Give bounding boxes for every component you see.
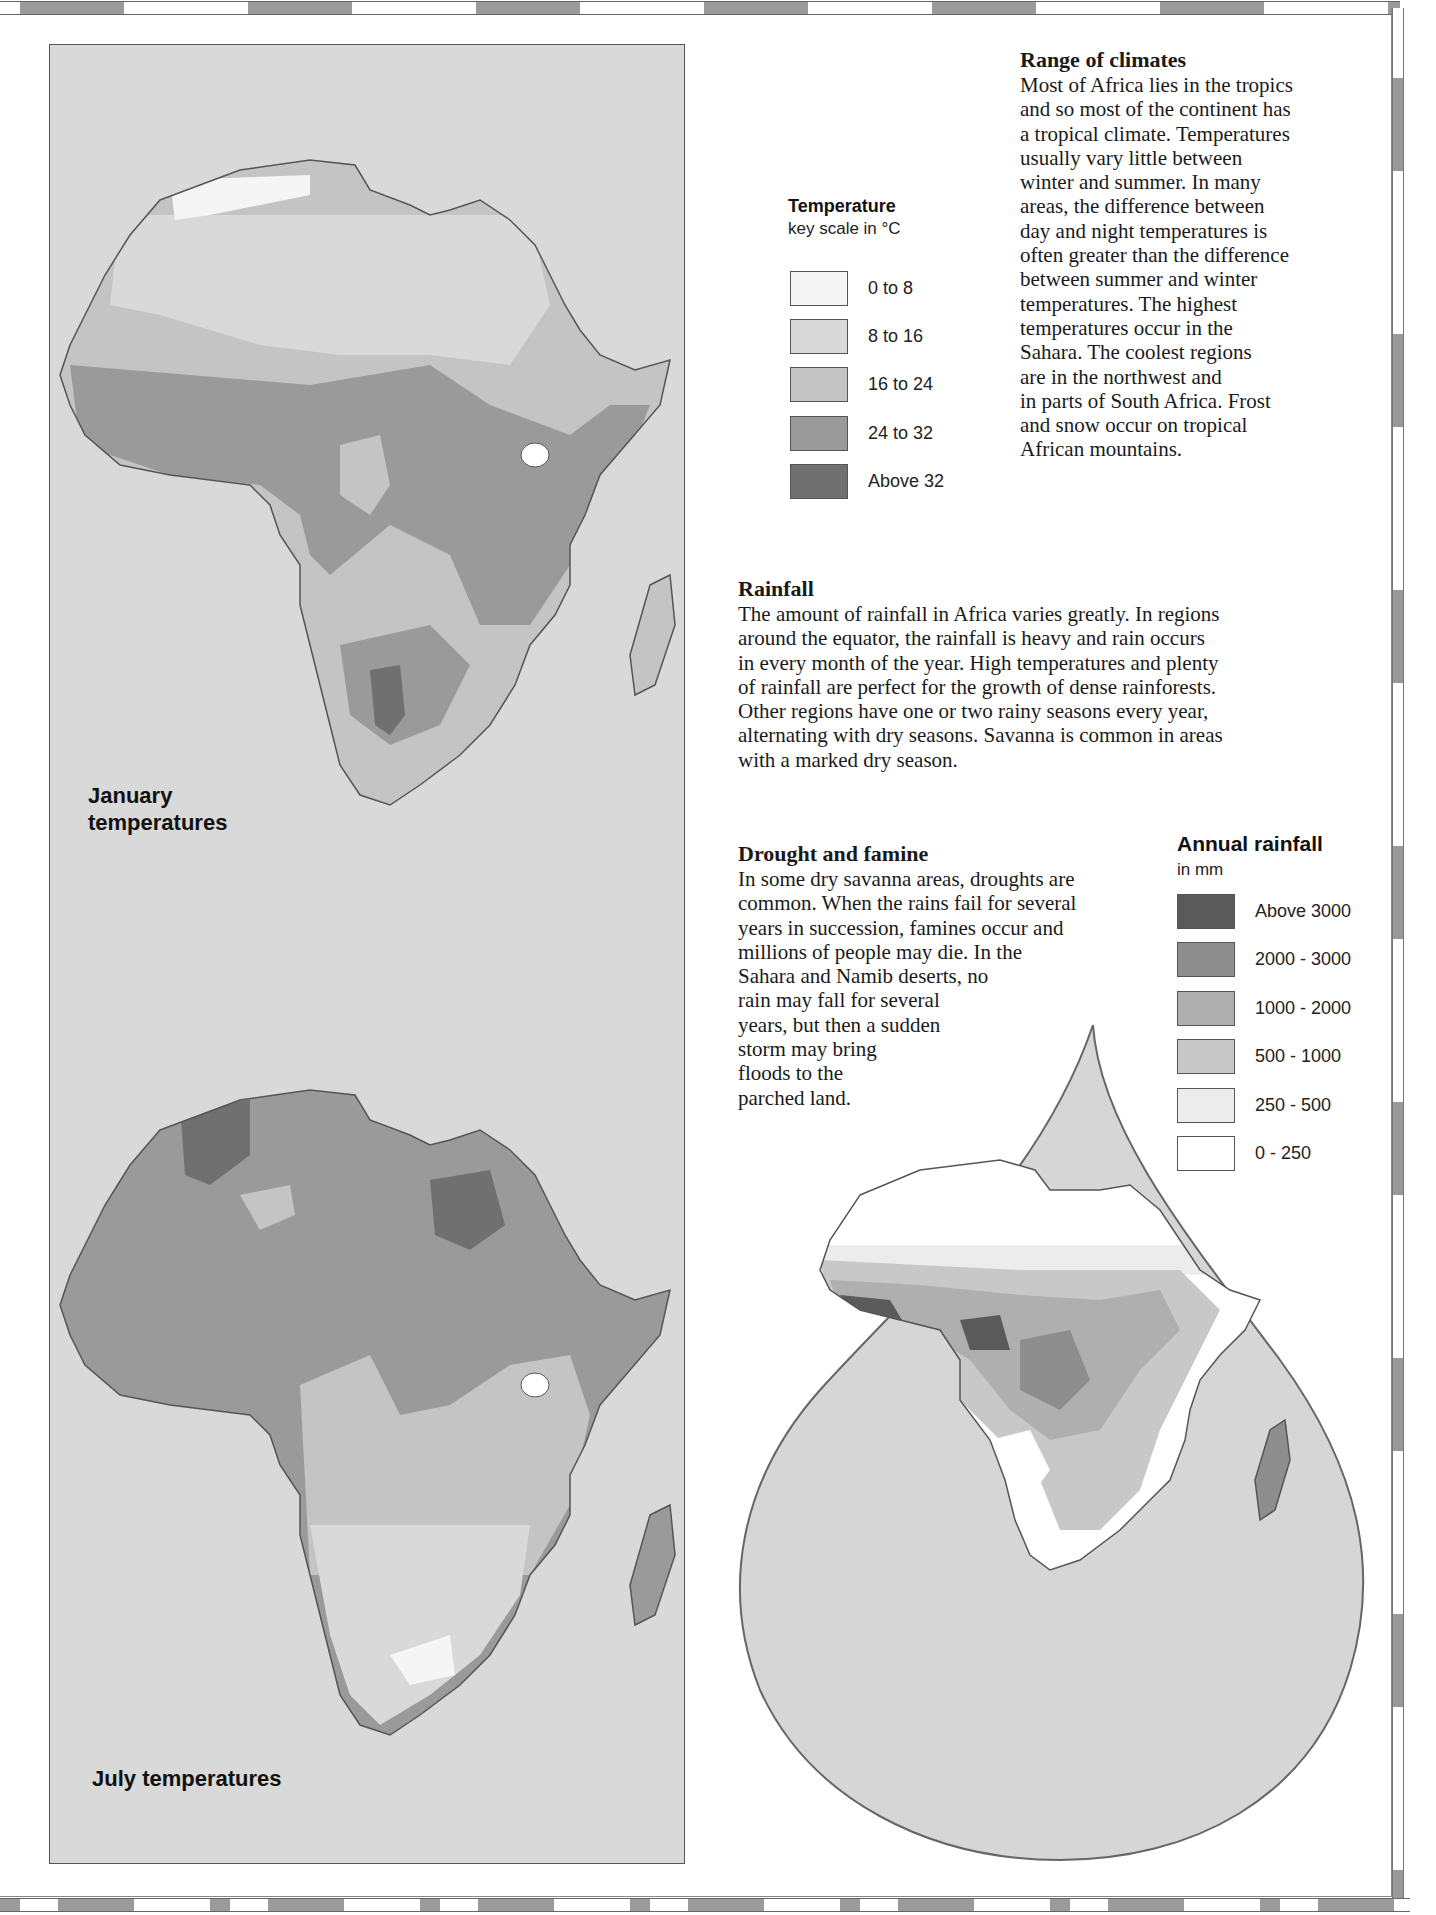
january-map-label: January temperatures — [88, 782, 227, 836]
text-line: The amount of rainfall in Africa varies … — [738, 602, 1223, 626]
rainfall-swatch — [1177, 991, 1235, 1026]
text-line: Sahara. The coolest regions — [1020, 340, 1293, 364]
temperature-legend-item: Above 32 — [790, 464, 944, 499]
text-line: in parts of South Africa. Frost — [1020, 389, 1293, 413]
text-line: around the equator, the rainfall is heav… — [738, 626, 1223, 650]
january-temperature-map — [49, 105, 685, 965]
text-line: usually vary little between — [1020, 146, 1293, 170]
rainfall-legend-title: Annual rainfall — [1177, 832, 1323, 856]
text-line: years, but then a sudden — [738, 1013, 1076, 1037]
drought-and-famine-section: Drought and famine In some dry savanna a… — [738, 841, 1076, 1110]
rainfall-legend-label: 1000 - 2000 — [1255, 998, 1351, 1019]
rainfall-legend-item: Above 3000 — [1177, 894, 1351, 929]
temperature-legend-item: 24 to 32 — [790, 416, 933, 451]
temperature-legend-label: 24 to 32 — [868, 423, 933, 444]
range-of-climates-body: Most of Africa lies in the tropics and s… — [1020, 73, 1293, 462]
rainfall-legend-label: 0 - 250 — [1255, 1143, 1311, 1164]
range-of-climates-section: Range of climates Most of Africa lies in… — [1020, 47, 1293, 462]
temperature-legend-subtitle: key scale in °C — [788, 219, 901, 239]
text-line: Other regions have one or two rainy seas… — [738, 699, 1223, 723]
rainfall-legend-item: 0 - 250 — [1177, 1136, 1311, 1171]
rainfall-body: The amount of rainfall in Africa varies … — [738, 602, 1223, 772]
rainfall-legend-item: 2000 - 3000 — [1177, 942, 1351, 977]
text-line: African mountains. — [1020, 437, 1293, 461]
july-temperature-map — [49, 1035, 685, 1864]
text-line: millions of people may die. In the — [738, 940, 1076, 964]
rainfall-swatch — [1177, 942, 1235, 977]
decorative-border-bottom — [0, 1898, 1410, 1912]
temperature-maps-panel: January temperatures July temperatures — [49, 44, 685, 1864]
drought-and-famine-body: In some dry savanna areas, droughts are … — [738, 867, 1076, 1110]
rainfall-section: Rainfall The amount of rainfall in Afric… — [738, 576, 1223, 772]
rainfall-swatch — [1177, 894, 1235, 929]
text-line: and snow occur on tropical — [1020, 413, 1293, 437]
text-line: and so most of the continent has — [1020, 97, 1293, 121]
text-line: with a marked dry season. — [738, 748, 1223, 772]
temperature-legend-item: 0 to 8 — [790, 271, 913, 306]
rainfall-swatch — [1177, 1088, 1235, 1123]
text-line: years in succession, famines occur and — [738, 916, 1076, 940]
rainfall-swatch — [1177, 1039, 1235, 1074]
range-of-climates-heading: Range of climates — [1020, 47, 1293, 73]
rainfall-legend-label: 2000 - 3000 — [1255, 949, 1351, 970]
rainfall-legend-subtitle: in mm — [1177, 860, 1223, 880]
july-map-label: July temperatures — [92, 1765, 282, 1792]
text-line: areas, the difference between — [1020, 194, 1293, 218]
text-line: temperatures. The highest — [1020, 292, 1293, 316]
rainfall-swatch — [1177, 1136, 1235, 1171]
temperature-legend-label: 16 to 24 — [868, 374, 933, 395]
temperature-swatch — [790, 367, 848, 402]
text-line: Most of Africa lies in the tropics — [1020, 73, 1293, 97]
text-line: alternating with dry seasons. Savanna is… — [738, 723, 1223, 747]
temperature-legend-item: 16 to 24 — [790, 367, 933, 402]
text-line: often greater than the difference — [1020, 243, 1293, 267]
temperature-swatch — [790, 319, 848, 354]
rainfall-legend-label: 250 - 500 — [1255, 1095, 1331, 1116]
temperature-swatch — [790, 416, 848, 451]
january-label-line1: January — [88, 782, 227, 809]
temperature-swatch — [790, 271, 848, 306]
rainfall-legend-item: 500 - 1000 — [1177, 1039, 1341, 1074]
text-line: Sahara and Namib deserts, no — [738, 964, 1076, 988]
rainfall-heading: Rainfall — [738, 576, 1223, 602]
text-line: temperatures occur in the — [1020, 316, 1293, 340]
text-line: of rainfall are perfect for the growth o… — [738, 675, 1223, 699]
temperature-legend-item: 8 to 16 — [790, 319, 923, 354]
text-line: winter and summer. In many — [1020, 170, 1293, 194]
temperature-legend-title: Temperature — [788, 196, 896, 217]
text-line: day and night temperatures is — [1020, 219, 1293, 243]
text-line: storm may bring — [738, 1037, 1076, 1061]
january-label-line2: temperatures — [88, 809, 227, 836]
text-line: floods to the — [738, 1061, 1076, 1085]
temperature-swatch — [790, 464, 848, 499]
temperature-legend-label: 0 to 8 — [868, 278, 913, 299]
rainfall-legend-item: 250 - 500 — [1177, 1088, 1331, 1123]
text-line: common. When the rains fail for several — [738, 891, 1076, 915]
text-line: between summer and winter — [1020, 267, 1293, 291]
text-line: parched land. — [738, 1086, 1076, 1110]
text-line: in every month of the year. High tempera… — [738, 651, 1223, 675]
temperature-legend-label: 8 to 16 — [868, 326, 923, 347]
text-line: rain may fall for several — [738, 988, 1076, 1012]
temperature-legend-label: Above 32 — [868, 471, 944, 492]
rainfall-legend-label: 500 - 1000 — [1255, 1046, 1341, 1067]
rainfall-legend-label: Above 3000 — [1255, 901, 1351, 922]
rainfall-legend-item: 1000 - 2000 — [1177, 991, 1351, 1026]
drought-and-famine-heading: Drought and famine — [738, 841, 1076, 867]
text-line: a tropical climate. Temperatures — [1020, 122, 1293, 146]
text-line: In some dry savanna areas, droughts are — [738, 867, 1076, 891]
text-line: are in the northwest and — [1020, 365, 1293, 389]
